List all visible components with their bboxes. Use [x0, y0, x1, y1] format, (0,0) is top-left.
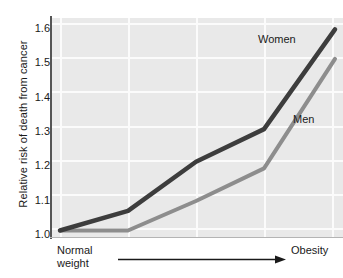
chart-figure: Relative risk of death from cancer 1.6 1… [0, 0, 343, 278]
y-tick-1.6: 1.6 [20, 23, 50, 33]
y-tick-1.5: 1.5 [20, 57, 50, 67]
x-axis-arrow [118, 250, 286, 259]
y-tick-1.4: 1.4 [20, 92, 50, 102]
x-axis-start-label: Normal weight [57, 244, 117, 270]
x-axis-end-label: Obesity [291, 244, 328, 256]
y-tick-1.3: 1.3 [20, 126, 50, 136]
data-lines [52, 18, 343, 237]
y-tick-1.0: 1.0 [20, 229, 50, 239]
x-axis-start-label-line1: Normal [57, 244, 92, 256]
series-label-women: Women [258, 33, 296, 45]
x-axis: Normal weight Obesity [0, 240, 343, 278]
y-tick-1.1: 1.1 [20, 195, 50, 205]
y-tick-1.2: 1.2 [20, 160, 50, 170]
y-axis-tick-labels: 1.6 1.5 1.4 1.3 1.2 1.1 1.0 [16, 0, 50, 278]
plot-area [52, 18, 343, 237]
arrow-right-icon [118, 255, 286, 264]
x-axis-start-label-line2: weight [57, 257, 89, 269]
series-label-men: Men [293, 113, 314, 125]
x-axis-baseline [50, 237, 343, 238]
